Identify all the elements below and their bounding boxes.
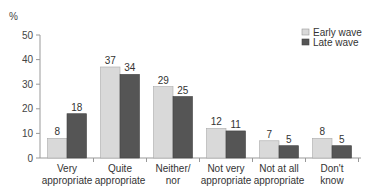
bar-chart: %01020304050818Veryappropriate3734Quitea… (0, 0, 379, 187)
value-label: 29 (158, 75, 170, 86)
value-label: 5 (339, 134, 345, 145)
y-tick-label: 30 (22, 79, 34, 90)
bar-early-wave (260, 141, 280, 158)
legend-swatch (302, 29, 309, 35)
category-label: appropriate (254, 175, 305, 186)
category-label: appropriate (201, 175, 252, 186)
value-label: 11 (231, 119, 242, 130)
value-label: 8 (319, 126, 325, 137)
category-label: Neither/ (155, 163, 190, 174)
category-label: appropriate (95, 175, 146, 186)
bar-early-wave (48, 138, 68, 158)
value-label: 25 (177, 85, 189, 96)
bar-late-wave (173, 97, 193, 159)
category-label: Quite (108, 163, 132, 174)
category-label: know (320, 175, 344, 186)
bar-early-wave (154, 87, 174, 158)
value-label: 34 (124, 62, 136, 73)
bar-late-wave (120, 74, 140, 158)
y-tick-label: 0 (27, 153, 33, 164)
y-tick-label: 50 (22, 30, 34, 41)
value-label: 7 (266, 129, 272, 140)
value-label: 8 (54, 126, 60, 137)
bar-early-wave (313, 138, 333, 158)
y-axis-label: % (9, 11, 18, 22)
bar-early-wave (101, 67, 121, 158)
category-label: Not very (207, 163, 244, 174)
value-label: 5 (286, 134, 292, 145)
y-tick-label: 40 (22, 54, 34, 65)
value-label: 37 (105, 55, 117, 66)
category-label: Don't (320, 163, 343, 174)
bar-late-wave (226, 131, 246, 158)
bar-late-wave (67, 114, 87, 158)
legend-label: Late wave (313, 37, 359, 48)
bar-late-wave (332, 146, 352, 158)
value-label: 18 (71, 102, 83, 113)
category-label: Not at all (259, 163, 298, 174)
bar-late-wave (279, 146, 299, 158)
category-label: appropriate (42, 175, 93, 186)
value-label: 12 (211, 116, 223, 127)
bar-early-wave (207, 128, 227, 158)
y-tick-label: 20 (22, 103, 34, 114)
legend-swatch (302, 39, 309, 45)
category-label: nor (166, 175, 181, 186)
y-tick-label: 10 (22, 128, 34, 139)
category-label: Very (57, 163, 77, 174)
